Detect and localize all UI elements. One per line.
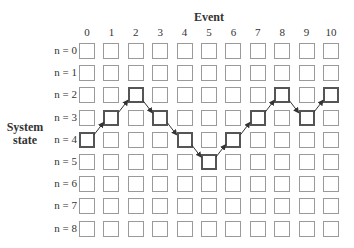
path-arrows	[0, 0, 354, 248]
transition-arrow	[167, 123, 176, 135]
transition-arrow	[118, 100, 127, 112]
transition-arrow	[94, 123, 103, 135]
transition-arrow	[265, 100, 274, 112]
transition-arrow	[216, 145, 225, 157]
random-walk-state-diagram: Event System state 012345678910 n = 0n =…	[0, 0, 354, 248]
transition-arrow	[314, 100, 323, 112]
transition-arrow	[240, 123, 249, 135]
transition-arrow	[289, 100, 298, 112]
transition-arrow	[143, 100, 152, 112]
transition-arrow	[192, 145, 201, 157]
